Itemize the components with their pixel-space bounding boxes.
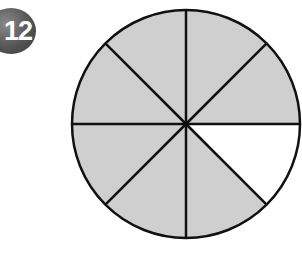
fraction-circle-diagram [0,0,302,261]
slice-dividers [72,10,300,238]
